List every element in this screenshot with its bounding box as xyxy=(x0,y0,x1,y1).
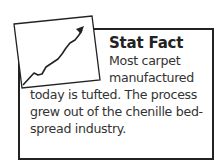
stat-fact-line: today is tufted. The process xyxy=(30,86,197,103)
stat-fact-line: spread industry. xyxy=(30,120,126,137)
stat-fact-line: grew out of the chenille bed- xyxy=(30,103,203,120)
stat-fact-line: Most carpet xyxy=(109,52,180,69)
stat-fact-line: manufactured xyxy=(109,69,194,86)
rising-chart-icon xyxy=(0,0,110,100)
stat-fact-title: Stat Fact xyxy=(109,34,183,52)
